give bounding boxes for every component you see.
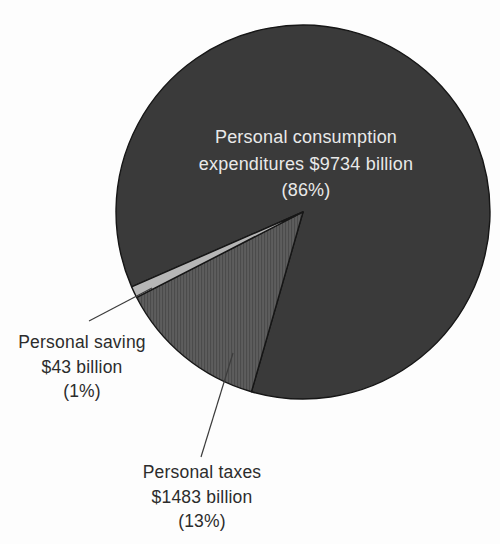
label-line: $1483 billion bbox=[143, 485, 262, 510]
figure: Personal consumption expenditures $9734 … bbox=[0, 0, 500, 544]
slice-label-taxes: Personal taxes $1483 billion (13%) bbox=[143, 460, 262, 534]
label-line: expenditures $9734 billion bbox=[199, 151, 413, 178]
label-line: (13%) bbox=[143, 509, 262, 534]
slice-label-consumption: Personal consumption expenditures $9734 … bbox=[199, 124, 413, 204]
pie-slices-group bbox=[116, 25, 490, 399]
slice-label-saving: Personal saving $43 billion (1%) bbox=[18, 330, 146, 404]
label-line: Personal taxes bbox=[143, 460, 262, 485]
label-line: $43 billion bbox=[18, 355, 146, 380]
label-line: (86%) bbox=[199, 177, 413, 204]
label-line: Personal consumption bbox=[199, 124, 413, 151]
label-line: Personal saving bbox=[18, 330, 146, 355]
label-line: (1%) bbox=[18, 379, 146, 404]
